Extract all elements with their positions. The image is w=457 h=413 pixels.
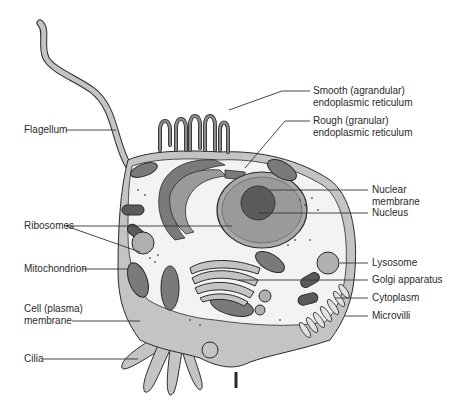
label-microvilli: Microvilli: [372, 310, 410, 322]
label-smooth-er: Smooth (agrandular) endoplasmic reticulu…: [313, 85, 413, 109]
label-cytoplasm: Cytoplasm: [372, 292, 419, 304]
flagellum-shape: [40, 23, 128, 165]
label-mitochondrion: Mitochondrion: [24, 263, 87, 275]
label-rough-er: Rough (granular) endoplasmic reticulum: [313, 115, 413, 139]
label-golgi-apparatus: Golgi apparatus: [372, 274, 443, 286]
label-ribosomes: Ribosomes: [24, 220, 74, 232]
label-nuclear-membrane: Nuclear membrane: [372, 184, 420, 208]
label-cell-membrane: Cell (plasma) membrane: [24, 303, 83, 327]
label-nucleus: Nucleus: [372, 207, 408, 219]
lysosome-shape: [317, 252, 339, 274]
label-lysosome: Lysosome: [372, 257, 417, 269]
label-flagellum: Flagellum: [24, 124, 67, 136]
label-cilia: Cilia: [24, 353, 43, 365]
nucleus-shape: [217, 172, 307, 248]
nucleolus-shape: [241, 186, 275, 220]
